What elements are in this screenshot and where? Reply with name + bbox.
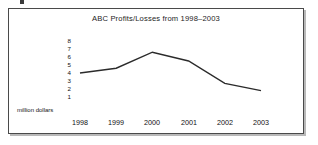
x-tick-label-2003: 2003 — [248, 119, 274, 126]
x-tick-label-1998: 1998 — [67, 119, 93, 126]
top-left-artifact-mark — [20, 0, 24, 4]
series-polyline — [80, 52, 261, 90]
series-line-abc-profits-losses — [9, 9, 305, 135]
x-tick-label-2001: 2001 — [176, 119, 202, 126]
plot-area: 8 7 6 5 4 3 2 1 million dollars 1998 199… — [9, 9, 305, 135]
x-tick-label-2000: 2000 — [139, 119, 165, 126]
chart-frame: ABC Profits/Losses from 1998–2003 8 7 6 … — [8, 8, 304, 134]
x-tick-label-1999: 1999 — [103, 119, 129, 126]
x-tick-label-2002: 2002 — [212, 119, 238, 126]
